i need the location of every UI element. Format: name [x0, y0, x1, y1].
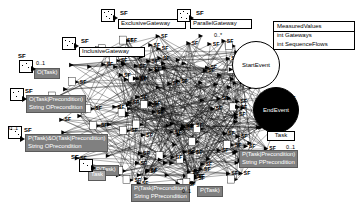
- assoc-o-task-precondition[interactable]: O(Task|Precondition) String OPreconditio…: [26, 95, 86, 113]
- assoc-p-task-precondition-bottom-line1: P(Task|Precondition): [134, 185, 187, 191]
- arrow-exclusive-gateway: [113, 15, 118, 21]
- task-box[interactable]: Task: [267, 131, 295, 141]
- sf-tag-p-and-o-task: SF: [24, 127, 32, 134]
- assoc-p-and-o-task-line1: P(Task)&O(Task|Precondition): [28, 135, 105, 141]
- svg-text:SF: SF: [162, 45, 168, 51]
- svg-text:SF: SF: [222, 95, 228, 101]
- svg-text:SF: SF: [139, 63, 145, 69]
- svg-text:SF: SF: [141, 94, 147, 100]
- assoc-o-task-precondition-line1: O(Task|Precondition): [29, 96, 83, 102]
- sf-tag-o-task-precondition: SF: [25, 88, 33, 95]
- svg-text:SF: SF: [157, 109, 163, 115]
- svg-text:SF: SF: [196, 122, 202, 128]
- svg-text:SF: SF: [133, 99, 139, 105]
- start-event-label: StartEvent: [233, 62, 279, 68]
- svg-text:SF: SF: [154, 42, 160, 48]
- arrow-inclusive-gateway: [74, 43, 79, 49]
- svg-text:SF: SF: [107, 61, 113, 67]
- measured-values-class[interactable]: MeasuredValues int Gateways int Sequence…: [273, 21, 355, 50]
- arrow-o-task: [31, 66, 36, 72]
- svg-text:SF: SF: [244, 170, 250, 176]
- assoc-p-and-o-task-line2: String OPrecondition: [28, 143, 105, 151]
- assoc-inclusive-gateway-label: InclusiveGateway: [82, 48, 129, 54]
- svg-text:SF: SF: [198, 175, 204, 181]
- assoc-p-task-bottom-right-label: P(Task): [200, 187, 220, 193]
- start-event-multiplicity: 0..*: [214, 32, 222, 38]
- assoc-o-task[interactable]: O(Task): [34, 68, 60, 79]
- assoc-parallel-gateway-label: ParallelGateway: [193, 20, 237, 26]
- svg-text:SF: SF: [239, 111, 245, 117]
- svg-text:SF: SF: [151, 168, 157, 174]
- svg-text:SF: SF: [140, 76, 146, 82]
- svg-text:SF: SF: [187, 124, 193, 130]
- task-box-label: Task: [275, 132, 287, 138]
- svg-text:SF: SF: [163, 55, 169, 61]
- sf-tag-o-task: SF: [18, 53, 26, 60]
- svg-text:SF: SF: [152, 58, 158, 64]
- arrow-p-task: [91, 165, 96, 171]
- svg-text:SF: SF: [141, 160, 147, 166]
- assoc-o-task-label: O(Task): [37, 69, 57, 75]
- assoc-p-task-precondition-bottom-line2: String PPrecondition: [134, 193, 187, 201]
- svg-text:SF: SF: [95, 105, 101, 111]
- mult-p-task-precondition-right: 0..1: [286, 144, 295, 150]
- assoc-p-task-precondition-right-line1: P(Task|Precondition): [242, 151, 295, 157]
- svg-text:SF: SF: [211, 64, 217, 70]
- svg-text:SF: SF: [176, 154, 182, 160]
- svg-text:SF: SF: [65, 116, 71, 122]
- assoc-p-task-bottom-right[interactable]: P(Task): [197, 186, 223, 197]
- svg-text:SF: SF: [131, 37, 137, 43]
- svg-text:SF: SF: [204, 166, 210, 172]
- end-event-node[interactable]: EndEvent: [253, 87, 299, 133]
- assoc-p-and-o-task[interactable]: P(Task)&O(Task|Precondition) String OPre…: [25, 134, 108, 152]
- svg-text:SF: SF: [143, 150, 149, 156]
- svg-text:SF: SF: [175, 129, 181, 135]
- assoc-p-task-precondition-right[interactable]: P(Task|Precondition) String PPreconditio…: [239, 150, 298, 168]
- measured-values-attr-gateways: int Gateways: [274, 32, 354, 41]
- svg-text:SF: SF: [161, 33, 167, 39]
- svg-text:SF: SF: [192, 40, 198, 46]
- mult-o-task: 0..1: [36, 60, 45, 66]
- svg-text:SF: SF: [213, 41, 219, 47]
- svg-text:SF: SF: [196, 149, 202, 155]
- svg-text:SF: SF: [181, 78, 187, 84]
- svg-text:SF: SF: [232, 170, 238, 176]
- svg-text:SF: SF: [249, 143, 255, 149]
- svg-text:SF: SF: [241, 104, 247, 110]
- sf-tag-exclusive-gateway: SF: [120, 10, 128, 17]
- svg-text:SF: SF: [121, 57, 127, 63]
- svg-text:SF: SF: [235, 142, 241, 148]
- svg-text:SF: SF: [216, 105, 222, 111]
- diagram-canvas[interactable]: SFSFSFSFSFSFSFSFSFSFSFSFSFSFSFSFSFSFSFSF…: [0, 0, 360, 215]
- assoc-p-task-precondition-right-line2: String PPrecondition: [242, 159, 295, 167]
- svg-text:SF: SF: [222, 147, 228, 153]
- svg-text:SF: SF: [131, 127, 137, 133]
- mult-p-and-o-task: 0..1: [9, 125, 18, 131]
- svg-text:SF: SF: [152, 102, 158, 108]
- svg-text:SF: SF: [80, 79, 86, 85]
- assoc-o-task-precondition-line2: String OPrecondition: [29, 104, 83, 112]
- measured-values-title: MeasuredValues: [274, 22, 354, 32]
- assoc-parallel-gateway[interactable]: ParallelGateway: [190, 19, 252, 29]
- arrow-p-and-o-task: [20, 136, 25, 142]
- svg-text:SF: SF: [241, 133, 247, 139]
- svg-text:SF: SF: [192, 169, 198, 175]
- svg-text:SF: SF: [101, 122, 107, 128]
- sf-tag-inclusive-gateway: SF: [81, 38, 89, 45]
- svg-text:SF: SF: [188, 149, 194, 155]
- sf-tag-p-task: SF: [71, 154, 79, 161]
- arrow-parallel-gateway: [189, 15, 194, 21]
- svg-text:SF: SF: [146, 132, 152, 138]
- measured-values-attr-sequenceflows: int SequenceFlows: [274, 40, 354, 49]
- arrow-o-task-precondition: [22, 96, 27, 102]
- svg-text:SF: SF: [118, 104, 124, 110]
- svg-text:SF: SF: [154, 66, 160, 72]
- assoc-inclusive-gateway[interactable]: InclusiveGateway: [79, 47, 145, 57]
- svg-text:SF: SF: [134, 177, 140, 183]
- end-event-label: EndEvent: [254, 107, 298, 113]
- svg-text:SF: SF: [228, 130, 234, 136]
- assoc-exclusive-gateway-label: ExclusiveGateway: [121, 20, 170, 26]
- svg-text:SF: SF: [173, 80, 179, 86]
- assoc-exclusive-gateway[interactable]: ExclusiveGateway: [118, 19, 186, 29]
- svg-text:SF: SF: [124, 72, 130, 78]
